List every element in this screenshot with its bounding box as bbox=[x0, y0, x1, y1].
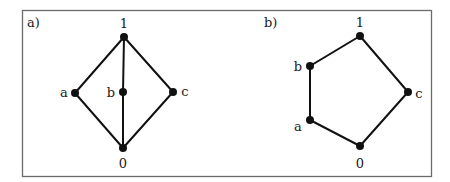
edge-b-1-b bbox=[310, 36, 360, 66]
label-b-top: 1 bbox=[356, 15, 364, 30]
edge-a-1-b bbox=[123, 37, 124, 92]
edge-a-c-0 bbox=[123, 92, 173, 148]
node-a-a bbox=[71, 89, 79, 97]
edge-a-a-0 bbox=[75, 93, 123, 148]
node-a-bottom bbox=[119, 144, 127, 152]
diagram-svg: a) 1 a b c 0 b) bbox=[0, 0, 450, 182]
label-b-c: c bbox=[415, 86, 422, 101]
label-a-a: a bbox=[60, 85, 68, 100]
node-a-top bbox=[120, 33, 128, 41]
node-a-c bbox=[169, 88, 177, 96]
panel-a: a) 1 a b c 0 bbox=[27, 15, 189, 171]
node-b-bottom bbox=[356, 142, 364, 150]
label-b-b: b bbox=[294, 59, 302, 74]
panel-a-label: a) bbox=[27, 15, 40, 30]
edge-b-a-0 bbox=[310, 120, 360, 146]
label-b-a: a bbox=[294, 119, 302, 134]
node-b-b bbox=[306, 62, 314, 70]
edge-a-1-a bbox=[75, 37, 124, 93]
panel-b-label: b) bbox=[264, 15, 277, 30]
label-a-bottom: 0 bbox=[119, 156, 127, 171]
node-b-c bbox=[404, 88, 412, 96]
edge-a-1-c bbox=[124, 37, 173, 92]
edge-b-1-c bbox=[360, 36, 408, 92]
label-a-top: 1 bbox=[120, 16, 128, 31]
label-a-b: b bbox=[107, 85, 115, 100]
label-a-c: c bbox=[181, 84, 188, 99]
node-b-top bbox=[356, 32, 364, 40]
figure-frame bbox=[23, 11, 432, 177]
edge-b-c-0 bbox=[360, 92, 408, 146]
lattice-diagram-figure: a) 1 a b c 0 b) bbox=[0, 0, 450, 182]
node-b-a bbox=[306, 116, 314, 124]
panel-b: b) 1 b a c 0 bbox=[264, 15, 423, 171]
label-b-bottom: 0 bbox=[356, 156, 364, 171]
node-a-b bbox=[119, 88, 127, 96]
